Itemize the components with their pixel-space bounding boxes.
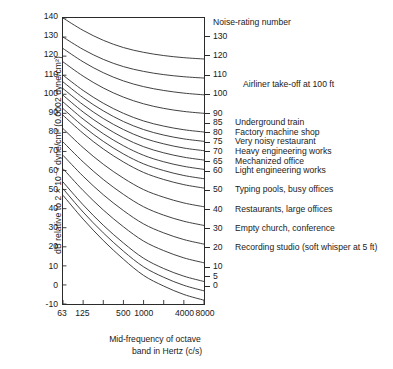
annotation-rating-number: 130 <box>213 31 230 42</box>
annotation-tick-mark <box>205 113 210 114</box>
annotation-rating-number: 120 <box>213 50 230 61</box>
annotation-rating-number: 100 <box>213 88 230 99</box>
annotation-tick-mark <box>205 94 210 95</box>
x-axis-title-line1: Mid-frequency of octave <box>109 334 201 344</box>
y-tick-label: 50 <box>34 185 58 194</box>
noise-rating-curve <box>63 169 204 263</box>
annotation-tick-mark <box>205 132 210 133</box>
annotation-tick-mark <box>205 151 210 152</box>
annotation-tick-mark <box>205 209 210 210</box>
annotation-rating-number: 0 <box>213 280 230 291</box>
y-tick-label: 40 <box>34 204 58 213</box>
annotation-description: Light engineering works <box>235 165 326 176</box>
annotation-header-label: Noise-rating number <box>213 17 291 28</box>
y-tick-label: 10 <box>34 262 58 271</box>
x-tick-label: 1000 <box>134 308 153 318</box>
annotation-rating-number: 30 <box>213 223 230 234</box>
annotation-rating-number: 50 <box>213 184 230 195</box>
annotation-tick-mark <box>205 276 210 277</box>
x-tick-label: 125 <box>75 308 89 318</box>
noise-rating-chart: dB relative to 2 × 10⁻⁴ dyne/cm² (0.0002… <box>0 0 393 369</box>
y-tick-label: 70 <box>34 146 58 155</box>
plot-area <box>62 17 205 305</box>
annotation-tick-mark <box>205 142 210 143</box>
noise-rating-curve <box>63 155 204 244</box>
x-tick-label: 500 <box>116 308 130 318</box>
annotation-description: Airliner take-off at 100 ft <box>243 79 334 90</box>
annotation-tick-mark <box>205 161 210 162</box>
y-tick-label: 130 <box>34 31 58 40</box>
y-tick-label: 30 <box>34 223 58 232</box>
y-tick-label: 140 <box>34 12 58 21</box>
y-tick-label: 120 <box>34 50 58 59</box>
annotation-description: Restaurants, large offices <box>235 204 332 215</box>
x-tick-label: 63 <box>57 308 67 318</box>
noise-rating-curve <box>63 109 204 179</box>
noise-rating-curve <box>63 182 204 282</box>
y-tick-label: 90 <box>34 108 58 117</box>
x-tick-label: 4000 <box>175 308 194 318</box>
annotation-tick-mark <box>205 36 210 37</box>
annotation-rating-number: 20 <box>213 242 230 253</box>
annotation-description: Empty church, conference <box>235 223 335 234</box>
annotation-tick-mark <box>205 267 210 268</box>
annotation-tick-mark <box>205 55 210 56</box>
y-tick-label: 110 <box>34 70 58 79</box>
y-tick-label: 0 <box>34 281 58 290</box>
y-tick-label: 20 <box>34 242 58 251</box>
annotation-tick-mark <box>205 228 210 229</box>
annotation-description: Recording studio (soft whisper at 5 ft) <box>235 242 377 253</box>
noise-rating-curve <box>63 49 204 95</box>
y-tick-label: 80 <box>34 127 58 136</box>
noise-rating-curve <box>63 195 204 300</box>
annotation-tick-marks <box>205 0 213 369</box>
annotation-description: Typing pools, busy offices <box>235 184 333 195</box>
annotation-rating-number: 60 <box>213 165 230 176</box>
annotation-tick-mark <box>205 171 210 172</box>
annotation-tick-mark <box>205 247 210 248</box>
annotation-rating-number: 40 <box>213 204 230 215</box>
noise-rating-curve <box>63 18 204 59</box>
annotation-tick-mark <box>205 123 210 124</box>
noise-rating-curves <box>63 18 204 304</box>
annotation-rating-number: 110 <box>213 69 230 80</box>
y-tick-label: 100 <box>34 89 58 98</box>
annotation-tick-mark <box>205 75 210 76</box>
annotation-tick-mark <box>205 286 210 287</box>
y-tick-label: 60 <box>34 166 58 175</box>
annotation-column: 130120110Airliner take-off at 100 ft1009… <box>205 0 393 369</box>
annotation-tick-mark <box>205 190 210 191</box>
